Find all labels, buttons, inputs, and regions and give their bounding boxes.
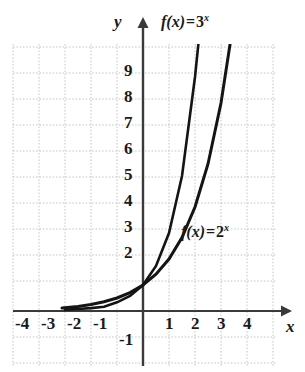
y-tick-8: 8 xyxy=(124,88,133,105)
curve-label-lower-base: 2 xyxy=(216,223,224,240)
y-tick-9: 9 xyxy=(124,62,133,79)
x-axis-label: x xyxy=(286,318,295,335)
curve-label-lower-equals: = xyxy=(205,223,216,240)
y-tick-negative-1: -1 xyxy=(119,331,133,348)
curve-2-to-the-x xyxy=(62,38,231,308)
curve-label-upper-base: 3 xyxy=(196,13,204,30)
x-tick-negative-4: -4 xyxy=(15,315,29,332)
curve-label-upper-exponent: x xyxy=(204,12,209,23)
x-tick-negative-3: -3 xyxy=(41,315,55,332)
x-tick-4: 4 xyxy=(243,315,252,332)
exponential-functions-graph: y x 9 8 7 6 5 4 3 2 -1 -4 -3 -2 -1 1 2 3… xyxy=(0,0,305,372)
y-tick-7: 7 xyxy=(124,114,133,131)
y-tick-4: 4 xyxy=(124,192,133,209)
curve-label-upper-equals: = xyxy=(185,13,196,30)
y-axis-label: y xyxy=(114,13,122,30)
y-axis xyxy=(138,17,149,366)
y-tick-2: 2 xyxy=(124,244,133,261)
curve-label-3-to-the-x: f(x)=3x xyxy=(161,14,209,30)
x-tick-2: 2 xyxy=(191,315,200,332)
curve-label-upper-fn: f(x) xyxy=(161,13,185,30)
x-tick-3: 3 xyxy=(217,315,226,332)
y-tick-5: 5 xyxy=(124,166,133,183)
curve-label-lower-exponent: x xyxy=(224,222,229,233)
x-tick-1: 1 xyxy=(165,315,174,332)
y-tick-3: 3 xyxy=(124,218,133,235)
x-tick-negative-2: -2 xyxy=(67,315,81,332)
y-tick-6: 6 xyxy=(124,140,133,157)
x-tick-negative-1: -1 xyxy=(93,315,107,332)
curve-label-lower-fn: f(x) xyxy=(181,223,205,240)
curve-label-2-to-the-x: f(x)=2x xyxy=(181,224,229,240)
